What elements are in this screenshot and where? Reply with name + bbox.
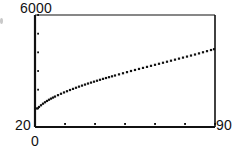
x-axis-ticks — [64, 123, 216, 125]
chart-figure: 6000 20 0 90 — [0, 0, 232, 153]
plot-area — [0, 0, 232, 153]
data-series-markers — [36, 48, 215, 109]
plot-frame — [35, 15, 215, 127]
y-axis-ticks — [37, 14, 39, 109]
